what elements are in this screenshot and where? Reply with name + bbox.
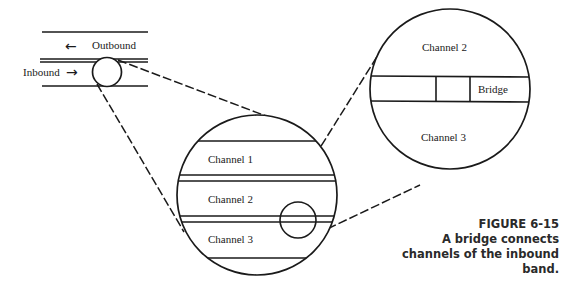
- connector-upper-small-to-middle: [118, 60, 266, 116]
- figure-caption: FIGURE 6-15 A bridge connects channels o…: [359, 217, 559, 277]
- inbound-label: Inbound: [23, 66, 60, 78]
- zoom-circle-middle: [177, 115, 337, 275]
- outbound-label: Outbound: [92, 39, 137, 51]
- figure-number: FIGURE 6-15: [359, 217, 559, 232]
- outbound-arrow-icon: ←: [65, 38, 77, 54]
- channel-3-label: Channel 3: [208, 233, 253, 245]
- detail-channel-3-label: Channel 3: [421, 131, 466, 143]
- detail-channel-2-label: Channel 2: [422, 41, 467, 53]
- detail-zoom-view: Channel 2 Bridge Channel 3: [365, 9, 535, 169]
- caption-line-3: band.: [359, 262, 559, 277]
- channel-2-label: Channel 2: [208, 193, 253, 205]
- inbound-arrow-icon: →: [66, 64, 78, 80]
- middle-zoom-view: Channel 1 Channel 2 Channel 3: [170, 115, 345, 275]
- bridge-band-bottom: [365, 101, 535, 102]
- channel-1-label: Channel 1: [208, 153, 253, 165]
- band-overview: ← Outbound Inbound →: [23, 32, 148, 87]
- caption-line-2: channels of the inbound: [359, 247, 559, 262]
- bridge-band-top: [365, 76, 535, 77]
- bridge-label: Bridge: [478, 83, 508, 95]
- connector-lower-small-to-middle: [97, 84, 184, 232]
- caption-line-1: A bridge connects: [359, 232, 559, 247]
- zoom-circle-small: [93, 58, 122, 87]
